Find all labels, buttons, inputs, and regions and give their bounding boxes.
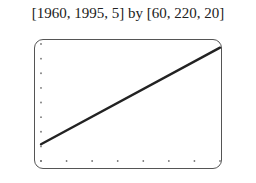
x-tick-dot: [219, 160, 221, 162]
plot-area: [0, 0, 256, 183]
x-tick-dot: [194, 160, 196, 162]
y-tick-dot: [40, 43, 42, 45]
y-tick-dot: [40, 102, 42, 104]
x-tick-dot: [117, 160, 119, 162]
x-tick-dot: [142, 160, 144, 162]
y-tick-dot: [40, 145, 42, 147]
x-tick-dot: [168, 160, 170, 162]
data-line: [41, 48, 220, 145]
y-tick-dot: [40, 160, 42, 162]
y-tick-dot: [40, 87, 42, 89]
x-tick-dot: [66, 160, 68, 162]
y-tick-dot: [40, 131, 42, 133]
y-tick-dot: [40, 58, 42, 60]
y-tick-dot: [40, 116, 42, 118]
y-tick-dot: [40, 72, 42, 74]
x-tick-dot: [91, 160, 93, 162]
